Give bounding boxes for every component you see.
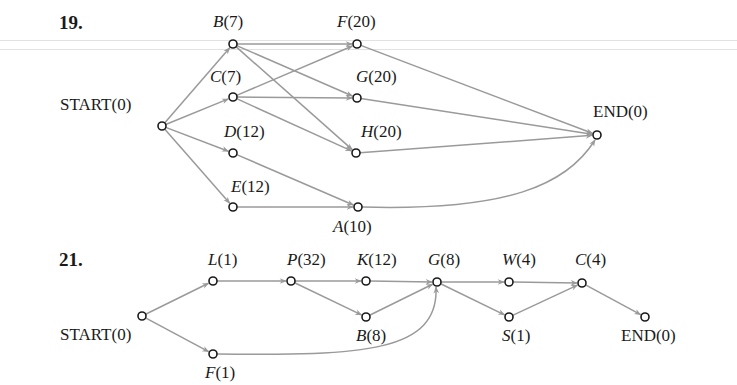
node-21-s bbox=[505, 313, 513, 321]
node-label-21-b: B(8) bbox=[356, 327, 386, 344]
activity-name: P bbox=[287, 250, 297, 269]
node-21-start bbox=[138, 312, 146, 320]
activity-duration: (0) bbox=[111, 95, 131, 114]
node-19-b bbox=[229, 40, 237, 48]
node-label-21-k: K(12) bbox=[357, 251, 397, 268]
activity-duration: (4) bbox=[516, 250, 536, 269]
node-21-b bbox=[362, 313, 370, 321]
activity-name: G bbox=[356, 67, 368, 86]
edge-21-start-to-l bbox=[146, 283, 209, 314]
node-label-21-c: C(4) bbox=[575, 251, 606, 268]
edge-21-c-to-end bbox=[586, 285, 641, 315]
activity-duration: (12) bbox=[241, 177, 269, 196]
node-label-21-s: S(1) bbox=[502, 327, 530, 344]
node-label-19-c: C(7) bbox=[210, 68, 241, 85]
node-label-21-start: START(0) bbox=[60, 326, 131, 343]
activity-duration: (20) bbox=[373, 122, 401, 141]
node-label-19-f: F(20) bbox=[337, 13, 376, 30]
edge-21-start-to-f bbox=[146, 318, 209, 352]
activity-duration: (10) bbox=[343, 217, 371, 236]
node-21-g bbox=[433, 278, 441, 286]
node-19-g bbox=[353, 94, 361, 102]
activity-duration: (0) bbox=[656, 326, 676, 345]
activity-duration: (4) bbox=[586, 250, 606, 269]
activity-duration: (20) bbox=[368, 67, 396, 86]
node-layer bbox=[138, 40, 649, 358]
node-21-end bbox=[641, 313, 649, 321]
node-21-f bbox=[209, 350, 217, 358]
activity-duration: (1) bbox=[215, 363, 235, 382]
node-19-d bbox=[229, 149, 237, 157]
activity-name: C bbox=[575, 250, 586, 269]
activity-name: C bbox=[210, 67, 221, 86]
activity-name: START bbox=[60, 325, 111, 344]
activity-duration: (12) bbox=[368, 250, 396, 269]
node-label-21-l: L(1) bbox=[208, 251, 237, 268]
node-label-19-g: G(20) bbox=[356, 68, 397, 85]
node-label-19-start: START(0) bbox=[60, 96, 131, 113]
activity-duration: (7) bbox=[221, 67, 241, 86]
node-label-19-end: END(0) bbox=[593, 103, 648, 120]
node-19-c bbox=[229, 93, 237, 101]
node-label-21-f: F(1) bbox=[205, 364, 235, 381]
activity-duration: (0) bbox=[111, 325, 131, 344]
node-19-f bbox=[353, 40, 361, 48]
activity-duration: (20) bbox=[347, 12, 375, 31]
edge-19-c-to-g bbox=[237, 97, 352, 98]
node-label-21-end: END(0) bbox=[621, 327, 676, 344]
activity-duration: (8) bbox=[440, 250, 460, 269]
node-19-h bbox=[352, 149, 360, 157]
node-21-k bbox=[362, 277, 370, 285]
node-label-21-g: G(8) bbox=[428, 251, 460, 268]
node-label-19-a: A(10) bbox=[333, 218, 372, 235]
node-19-end bbox=[593, 131, 601, 139]
activity-name: END bbox=[621, 326, 656, 345]
node-19-start bbox=[158, 122, 166, 130]
edge-21-p-to-b bbox=[295, 283, 362, 315]
activity-name: G bbox=[428, 250, 440, 269]
activity-duration: (32) bbox=[297, 250, 325, 269]
edge-21-f-to-g bbox=[217, 287, 436, 354]
activity-name: F bbox=[337, 12, 347, 31]
edge-21-k-to-g bbox=[370, 281, 432, 282]
activity-name: END bbox=[593, 102, 628, 121]
node-label-19-e: E(12) bbox=[231, 178, 270, 195]
activity-name: E bbox=[231, 177, 241, 196]
activity-duration: (8) bbox=[366, 326, 386, 345]
activity-duration: (0) bbox=[628, 102, 648, 121]
node-label-21-p: P(32) bbox=[287, 251, 326, 268]
node-label-21-w: W(4) bbox=[502, 251, 536, 268]
node-21-p bbox=[287, 277, 295, 285]
edge-21-s-to-c bbox=[513, 285, 578, 315]
activity-duration: (12) bbox=[236, 122, 264, 141]
activity-name: W bbox=[502, 250, 516, 269]
activity-duration: (1) bbox=[217, 250, 237, 269]
node-19-a bbox=[354, 203, 362, 211]
activity-name: A bbox=[333, 217, 343, 236]
activity-name: B bbox=[356, 326, 366, 345]
activity-name: S bbox=[502, 326, 511, 345]
node-21-l bbox=[209, 277, 217, 285]
activity-name: H bbox=[361, 122, 373, 141]
node-21-w bbox=[505, 278, 513, 286]
node-label-19-h: H(20) bbox=[361, 123, 402, 140]
edge-21-w-to-c bbox=[513, 282, 577, 283]
edge-19-start-to-d bbox=[166, 127, 229, 151]
activity-name: START bbox=[60, 95, 111, 114]
activity-duration: (7) bbox=[223, 12, 243, 31]
node-label-19-d: D(12) bbox=[224, 123, 265, 140]
activity-duration: (1) bbox=[511, 326, 531, 345]
node-19-e bbox=[229, 203, 237, 211]
activity-name: D bbox=[224, 122, 236, 141]
edge-21-b-to-g bbox=[370, 284, 433, 315]
edge-layer bbox=[146, 44, 641, 354]
edge-21-g-to-s bbox=[441, 284, 505, 315]
node-label-19-b: B(7) bbox=[213, 13, 243, 30]
edge-19-f-to-end bbox=[361, 45, 593, 133]
activity-name: F bbox=[205, 363, 215, 382]
activity-name: B bbox=[213, 12, 223, 31]
node-21-c bbox=[578, 279, 586, 287]
activity-name: K bbox=[357, 250, 368, 269]
